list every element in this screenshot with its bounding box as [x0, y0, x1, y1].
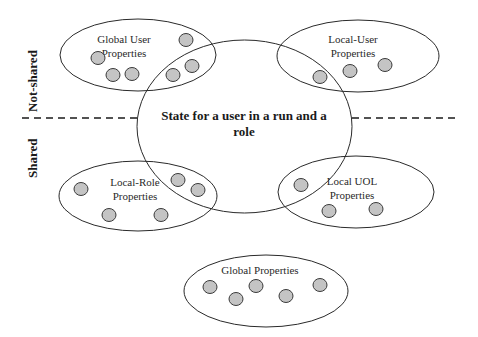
- group-global-user: Global User Properties: [60, 19, 216, 91]
- property-dot: [171, 174, 185, 187]
- property-dot: [279, 290, 293, 303]
- property-dot: [229, 293, 243, 306]
- central-state: State for a user in a run and a role: [137, 40, 352, 213]
- property-dot: [185, 60, 199, 73]
- group-global: Global Properties: [184, 255, 348, 327]
- property-dot: [369, 203, 383, 216]
- group-label: Properties: [330, 189, 375, 201]
- property-dot: [313, 71, 327, 84]
- property-dot: [191, 184, 205, 197]
- group-label: Local UOL: [327, 175, 378, 187]
- group-label: Global User: [97, 33, 151, 45]
- property-dot: [313, 279, 327, 292]
- central-state-label: role: [233, 124, 255, 139]
- property-dot: [74, 183, 88, 196]
- state-properties-diagram: Not-shared Shared Global User Properties…: [0, 0, 478, 337]
- property-dot: [125, 68, 139, 81]
- property-dot: [106, 69, 120, 82]
- property-dot: [166, 69, 180, 82]
- shared-label: Shared: [25, 138, 40, 178]
- group-label: Global Properties: [221, 264, 298, 276]
- group-label: Local-Role: [110, 176, 160, 188]
- property-dot: [203, 281, 217, 294]
- group-local-role: Local-Role Properties: [59, 161, 217, 231]
- not-shared-label: Not-shared: [25, 49, 40, 112]
- group-local-user: Local-User Properties: [277, 20, 439, 92]
- group-label: Properties: [102, 47, 147, 59]
- property-dot: [343, 65, 357, 78]
- property-dot: [179, 34, 193, 47]
- group-label: Local-User: [328, 33, 378, 45]
- group-label: Properties: [113, 190, 158, 202]
- property-dot: [154, 209, 168, 222]
- property-dot: [322, 205, 336, 218]
- property-dot: [91, 52, 105, 65]
- central-state-label: State for a user in a run and a: [161, 108, 327, 123]
- group-label: Properties: [331, 47, 376, 59]
- property-dot: [102, 209, 116, 222]
- group-local-uol: Local UOL Properties: [278, 156, 434, 228]
- property-dot: [249, 280, 263, 293]
- property-dot: [294, 179, 308, 192]
- property-dot: [378, 59, 392, 72]
